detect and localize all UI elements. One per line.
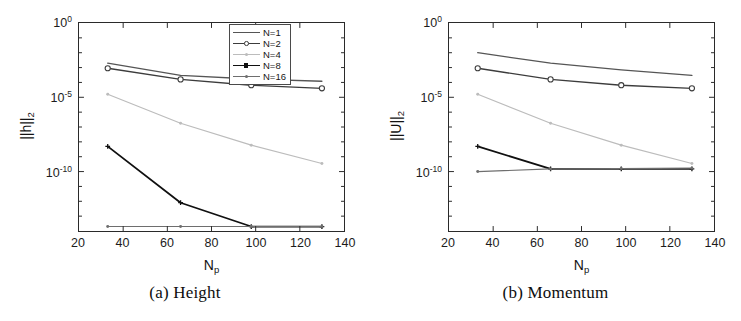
series-line-N-1 <box>478 53 692 76</box>
legend-label: N=4 <box>263 49 281 60</box>
y-axis-label-momentum: ||U||2 <box>389 86 403 166</box>
legend-entry: N=16 <box>233 71 286 82</box>
series-marker-N-16 <box>106 225 109 228</box>
series-marker-N-4 <box>320 162 323 165</box>
legend-label: N=16 <box>263 71 286 82</box>
figure-container: 10010-510-10 20406080100120140 ||h||2 Np… <box>0 0 741 321</box>
series-marker-N-16 <box>320 225 323 228</box>
x-axis-label-momentum: Np <box>542 258 622 272</box>
x-tick-label: 120 <box>651 237 691 250</box>
series-line-N-4 <box>108 94 322 163</box>
x-tick-label: 80 <box>562 237 602 250</box>
series-marker-N-4 <box>250 144 253 147</box>
caption-height: (a) Height <box>0 283 370 303</box>
x-tick-label: 120 <box>281 237 321 250</box>
series-marker-N-4 <box>549 122 552 125</box>
x-tick-label: 80 <box>192 237 232 250</box>
legend-swatch <box>233 49 260 60</box>
series-marker-N-4 <box>690 162 693 165</box>
panel-height: 10010-510-10 20406080100120140 ||h||2 Np… <box>0 0 370 321</box>
panel-momentum: 10010-510-10 20406080100120140 ||U||2 Np… <box>370 0 741 321</box>
x-tick-label: 100 <box>236 237 276 250</box>
series-marker-N-16 <box>620 167 623 170</box>
x-tick-label: 20 <box>428 237 468 250</box>
legend-swatch <box>233 71 260 82</box>
x-tick-label: 140 <box>695 237 735 250</box>
series-marker-N-2 <box>178 77 183 82</box>
x-tick-label: 60 <box>517 237 557 250</box>
series-marker-N-2 <box>105 66 110 71</box>
legend-entry: N=2 <box>233 38 286 49</box>
x-tick-label: 40 <box>103 237 143 250</box>
y-tick-label: 10-10 <box>14 165 72 180</box>
legend-label: N=2 <box>263 38 281 49</box>
plot-lines-height <box>79 23 344 231</box>
legend-label: N=1 <box>263 27 281 38</box>
series-marker-N-16 <box>549 167 552 170</box>
legend-entry: N=4 <box>233 49 286 60</box>
series-marker-N-2 <box>548 77 553 82</box>
series-marker-N-16 <box>690 167 693 170</box>
series-line-N-4 <box>478 94 692 163</box>
x-tick-label: 140 <box>325 237 365 250</box>
series-marker-N-16 <box>250 225 253 228</box>
legend-height: N=1N=2N=4N=8N=16 <box>229 24 291 85</box>
plot-lines-momentum <box>449 23 714 231</box>
y-tick-label: 100 <box>384 15 442 30</box>
legend-swatch <box>233 27 260 38</box>
series-line-N-2 <box>478 68 692 88</box>
legend-entry: N=8 <box>233 60 286 71</box>
x-tick-label: 60 <box>147 237 187 250</box>
legend-label: N=8 <box>263 60 281 71</box>
x-axis-label-height: Np <box>172 258 252 272</box>
series-marker-N-16 <box>476 170 479 173</box>
y-tick-label: 10-10 <box>384 165 442 180</box>
y-tick-label: 100 <box>14 15 72 30</box>
legend-swatch <box>233 60 260 71</box>
series-marker-N-8 <box>475 144 480 149</box>
series-line-N-8 <box>478 146 692 169</box>
series-marker-N-2 <box>619 83 624 88</box>
x-tick-label: 40 <box>473 237 513 250</box>
series-marker-N-4 <box>106 93 109 96</box>
x-tick-label: 20 <box>58 237 98 250</box>
series-marker-N-2 <box>319 86 324 91</box>
series-line-N-16 <box>478 168 692 171</box>
series-line-N-8 <box>108 146 322 226</box>
series-marker-N-16 <box>179 225 182 228</box>
legend-entry: N=1 <box>233 27 286 38</box>
caption-momentum: (b) Momentum <box>370 283 741 303</box>
series-marker-N-4 <box>179 122 182 125</box>
series-marker-N-2 <box>475 66 480 71</box>
series-marker-N-2 <box>689 86 694 91</box>
y-axis-label-height: ||h||2 <box>19 86 33 166</box>
legend-swatch <box>233 38 260 49</box>
plot-area-height <box>78 22 345 232</box>
series-marker-N-4 <box>476 93 479 96</box>
plot-area-momentum <box>448 22 715 232</box>
series-marker-N-4 <box>620 144 623 147</box>
x-tick-label: 100 <box>606 237 646 250</box>
